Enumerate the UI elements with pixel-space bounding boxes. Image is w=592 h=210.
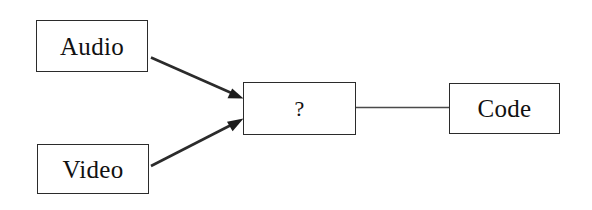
- edge-video-to-question-line: [151, 123, 235, 166]
- edge-video-to-question: [151, 119, 244, 167]
- node-code-label: Code: [478, 96, 532, 121]
- node-code[interactable]: Code: [449, 83, 560, 134]
- node-question[interactable]: ?: [243, 82, 356, 135]
- node-video[interactable]: Video: [37, 144, 149, 194]
- edge-audio-to-question: [151, 58, 244, 99]
- edge-audio-to-question-line: [151, 58, 236, 96]
- edge-audio-to-question-arrowhead: [228, 88, 244, 98]
- node-audio[interactable]: Audio: [36, 20, 148, 72]
- diagram-canvas: Audio Video ? Code: [0, 0, 592, 210]
- node-video-label: Video: [62, 157, 123, 182]
- node-audio-label: Audio: [60, 34, 124, 59]
- node-question-label: ?: [294, 98, 304, 120]
- edge-video-to-question-arrowhead: [227, 119, 244, 132]
